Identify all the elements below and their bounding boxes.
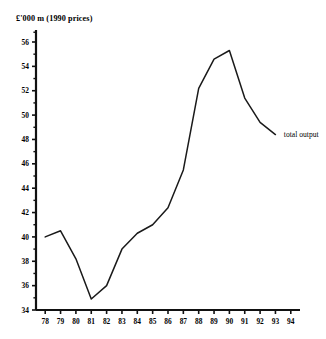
y-tick-label: 42 — [22, 208, 30, 217]
chart-plot-area: 343638404244464850525456 787980818283848… — [0, 0, 326, 339]
x-tick-label: 93 — [272, 317, 280, 326]
x-tick-label: 90 — [226, 317, 234, 326]
x-tick-label: 87 — [180, 317, 188, 326]
y-tick-label: 36 — [22, 281, 30, 290]
data-series-group — [45, 51, 275, 300]
data-line-total-output — [45, 51, 275, 300]
series-label-total-output: total output — [284, 130, 320, 139]
y-tick-label: 46 — [22, 159, 30, 168]
x-tick-label: 88 — [195, 317, 203, 326]
y-tick-label: 40 — [22, 233, 30, 242]
y-tick-label: 48 — [22, 135, 30, 144]
y-tick-label: 34 — [22, 306, 30, 315]
x-tick-label: 86 — [164, 317, 172, 326]
x-tick-label: 89 — [210, 317, 218, 326]
x-ticks-group: 7879808182838485868788899091929394 — [42, 310, 295, 326]
series-annotation-group: total output — [284, 130, 320, 139]
x-tick-label: 94 — [287, 317, 295, 326]
x-tick-label: 85 — [149, 317, 157, 326]
y-tick-label: 54 — [22, 62, 30, 71]
x-tick-label: 81 — [88, 317, 96, 326]
x-tick-label: 80 — [72, 317, 80, 326]
x-tick-label: 83 — [118, 317, 126, 326]
x-tick-label: 79 — [57, 317, 65, 326]
y-ticks-group: 343638404244464850525456 — [22, 32, 36, 314]
x-tick-label: 91 — [241, 317, 249, 326]
x-tick-label: 78 — [42, 317, 50, 326]
x-tick-label: 92 — [256, 317, 264, 326]
y-tick-label: 38 — [22, 257, 30, 266]
axes-group — [36, 30, 300, 310]
line-chart-figure: £'000 m (1990 prices) 343638404244464850… — [0, 0, 326, 339]
y-tick-label: 50 — [22, 111, 30, 120]
x-tick-label: 82 — [103, 317, 111, 326]
chart-page: £'000 m (1990 prices) 343638404244464850… — [0, 0, 326, 339]
y-tick-label: 56 — [22, 38, 30, 47]
y-tick-label: 44 — [22, 184, 30, 193]
y-tick-label: 52 — [22, 86, 30, 95]
x-tick-label: 84 — [134, 317, 142, 326]
